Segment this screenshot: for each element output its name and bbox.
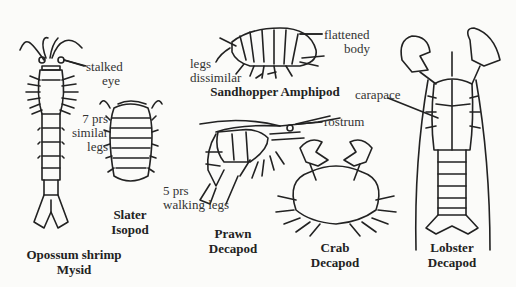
- slater-drawing: [100, 101, 162, 181]
- label-legs-2: legs: [190, 57, 241, 71]
- crab-drawing: [276, 140, 396, 236]
- label-legs-dissimilar: legs dissimilar: [190, 57, 241, 85]
- label-eye: eye: [86, 74, 123, 88]
- lobster-drawing: [401, 28, 500, 250]
- name-mysid: Opossum shrimp Mysid: [14, 247, 134, 277]
- label-body: body: [324, 42, 370, 56]
- name-lobster-group: Decapod: [422, 255, 482, 270]
- name-mysid-group: Mysid: [14, 262, 134, 277]
- name-prawn: Prawn Decapod: [203, 226, 263, 256]
- name-crab-common: Crab: [305, 240, 365, 255]
- name-slater-group: Isopod: [105, 222, 155, 237]
- label-flattened-body: flattened body: [324, 28, 370, 56]
- name-lobster: Lobster Decapod: [422, 240, 482, 270]
- label-carapace: carapace: [355, 88, 400, 102]
- label-seven-prs-similar-legs: 7 prs similar legs: [68, 112, 108, 154]
- label-flattened: flattened: [324, 28, 370, 42]
- label-stalked-eye: stalked eye: [86, 60, 123, 88]
- label-walking-legs: walking legs: [163, 198, 229, 212]
- label-rostrum: rostrum: [324, 115, 364, 129]
- label-five-prs: 5 prs: [163, 184, 229, 198]
- name-mysid-common: Opossum shrimp: [14, 247, 134, 262]
- name-lobster-common: Lobster: [422, 240, 482, 255]
- label-similar: similar: [68, 126, 108, 140]
- label-legs: legs: [68, 140, 108, 154]
- name-prawn-group: Decapod: [203, 241, 263, 256]
- label-five-prs-walking-legs: 5 prs walking legs: [163, 184, 229, 212]
- name-sandhopper: Sandhopper Amphipod: [195, 84, 355, 99]
- label-stalked: stalked: [86, 60, 123, 74]
- label-seven-prs: 7 prs: [68, 112, 108, 126]
- name-slater-common: Slater: [105, 207, 155, 222]
- name-crab-group: Decapod: [305, 255, 365, 270]
- name-crab: Crab Decapod: [305, 240, 365, 270]
- name-prawn-common: Prawn: [203, 226, 263, 241]
- label-dissimilar: dissimilar: [190, 71, 241, 85]
- name-slater: Slater Isopod: [105, 207, 155, 237]
